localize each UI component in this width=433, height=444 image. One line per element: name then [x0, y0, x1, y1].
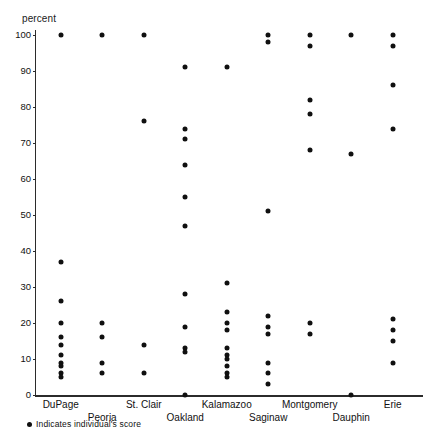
x-axis-tick-label-dauphin: Dauphin — [333, 412, 370, 423]
data-point — [307, 43, 312, 48]
data-point — [224, 321, 229, 326]
data-point — [100, 33, 105, 38]
x-axis-tick-label-saginaw: Saginaw — [249, 412, 287, 423]
data-point — [266, 324, 271, 329]
data-point — [390, 33, 395, 38]
y-axis-tick-label: 60 — [1, 174, 31, 184]
data-point — [390, 43, 395, 48]
y-axis-tick-label: 10 — [1, 354, 31, 364]
x-axis-tick-label-oakland: Oakland — [167, 412, 204, 423]
data-point — [266, 40, 271, 45]
data-point — [58, 375, 63, 380]
x-axis-tick-label-kalamazoo: Kalamazoo — [202, 399, 252, 410]
legend-label: Indicates individual's score — [36, 419, 141, 429]
y-axis-tick-label: 30 — [1, 282, 31, 292]
data-point — [307, 321, 312, 326]
data-point — [58, 259, 63, 264]
data-point — [58, 342, 63, 347]
data-point — [390, 317, 395, 322]
data-point — [224, 65, 229, 70]
data-point — [58, 321, 63, 326]
data-point — [183, 324, 188, 329]
data-point — [183, 137, 188, 142]
data-point — [307, 97, 312, 102]
y-axis-tick-label: 70 — [1, 138, 31, 148]
data-point — [100, 321, 105, 326]
legend: Indicates individual's score — [27, 419, 141, 429]
data-point — [58, 33, 63, 38]
data-point — [266, 313, 271, 318]
data-point — [307, 148, 312, 153]
data-point — [224, 364, 229, 369]
data-point — [390, 83, 395, 88]
data-point — [58, 353, 63, 358]
data-point — [183, 292, 188, 297]
data-point — [224, 357, 229, 362]
data-point — [224, 310, 229, 315]
data-point — [141, 33, 146, 38]
data-point — [183, 162, 188, 167]
data-point — [183, 65, 188, 70]
data-point — [58, 364, 63, 369]
x-axis-line — [35, 395, 423, 397]
y-axis-tick-label: 40 — [1, 246, 31, 256]
data-point — [141, 342, 146, 347]
data-point — [183, 393, 188, 398]
data-point — [100, 335, 105, 340]
data-point — [266, 209, 271, 214]
data-point — [266, 371, 271, 376]
data-point — [100, 371, 105, 376]
data-point — [307, 33, 312, 38]
y-axis-tick-label: 80 — [1, 102, 31, 112]
data-point — [58, 335, 63, 340]
data-point — [266, 360, 271, 365]
data-point — [307, 331, 312, 336]
y-axis-tick-label: 90 — [1, 66, 31, 76]
data-point — [390, 328, 395, 333]
data-point — [183, 195, 188, 200]
data-point — [349, 33, 354, 38]
data-point — [390, 339, 395, 344]
y-axis-tick-label: 50 — [1, 210, 31, 220]
data-point — [224, 375, 229, 380]
x-axis-tick-label-erie: Erie — [384, 399, 402, 410]
data-point — [183, 223, 188, 228]
data-point — [183, 126, 188, 131]
data-point — [100, 360, 105, 365]
data-point — [224, 346, 229, 351]
x-axis-tick-label-st-clair: St. Clair — [126, 399, 162, 410]
data-point — [183, 349, 188, 354]
data-point — [141, 371, 146, 376]
scatter-chart: percent 0102030405060708090100 DuPagePeo… — [0, 0, 433, 444]
data-point — [58, 299, 63, 304]
legend-marker-icon — [27, 422, 32, 427]
x-axis-tick-label-montgomery: Montgomery — [282, 399, 338, 410]
data-point — [141, 119, 146, 124]
y-axis-tick-label: 20 — [1, 318, 31, 328]
data-point — [224, 281, 229, 286]
data-point — [266, 382, 271, 387]
data-point — [390, 360, 395, 365]
data-point — [266, 33, 271, 38]
data-point — [349, 393, 354, 398]
data-point — [224, 328, 229, 333]
y-axis-line — [35, 30, 36, 396]
y-axis-tick-label: 100 — [1, 30, 31, 40]
data-point — [390, 126, 395, 131]
y-axis-title: percent — [22, 13, 56, 24]
data-point — [266, 331, 271, 336]
y-axis-tick-label: 0 — [1, 390, 31, 400]
x-axis-tick-label-dupage: DuPage — [43, 399, 79, 410]
data-point — [307, 112, 312, 117]
data-point — [349, 151, 354, 156]
